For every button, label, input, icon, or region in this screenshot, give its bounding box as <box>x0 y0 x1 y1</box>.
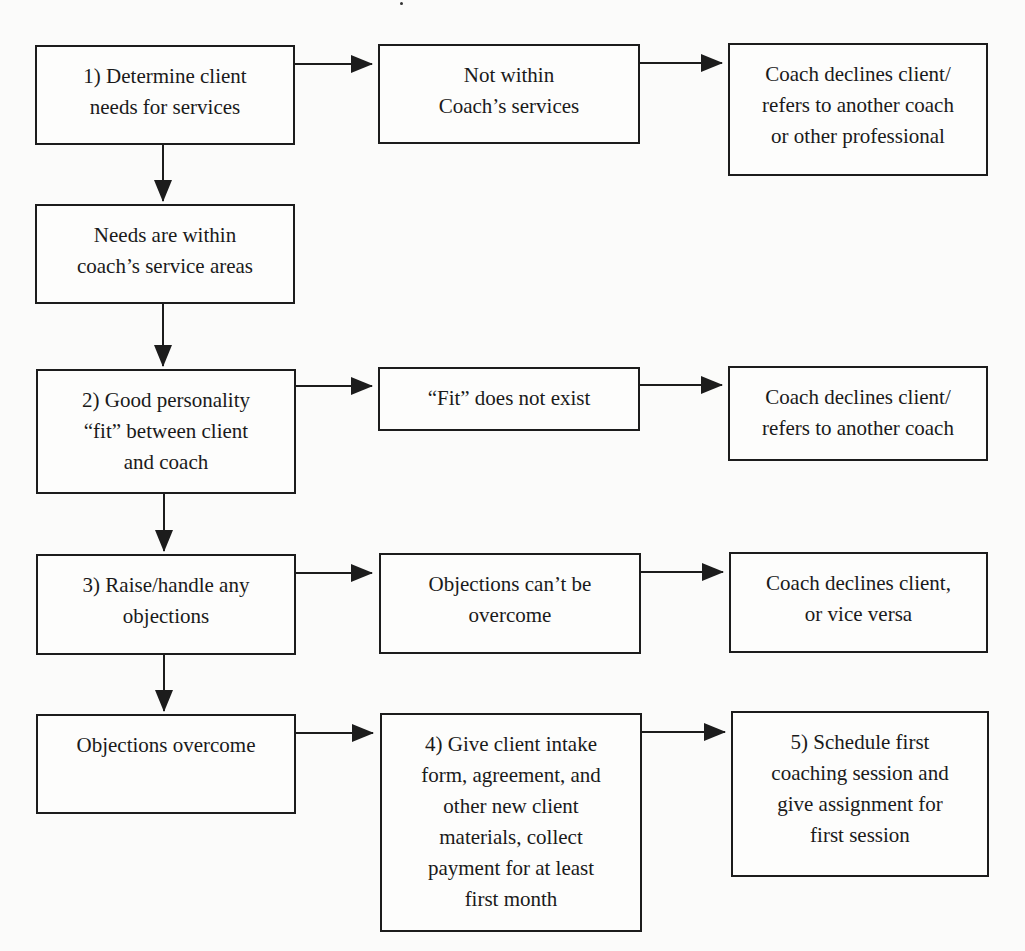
node-label: “Fit” does not exist <box>428 383 591 414</box>
node-label: Objections can’t be overcome <box>429 569 592 631</box>
node-decline3: Coach declines client, or vice versa <box>729 552 988 653</box>
node-label: 4) Give client intake form, agreement, a… <box>421 729 601 915</box>
node-fit-not-exist: “Fit” does not exist <box>378 367 640 431</box>
node-label: Objections overcome <box>76 730 255 761</box>
node-label: 3) Raise/handle any objections <box>83 570 250 632</box>
node-label: Not within Coach’s services <box>439 60 580 122</box>
node-label: Coach declines client, or vice versa <box>766 568 951 630</box>
node-label: 2) Good personality “fit” between client… <box>82 385 250 478</box>
node-label: Coach declines client/ refers to another… <box>762 382 954 444</box>
node-label: 5) Schedule first coaching session and g… <box>771 727 948 851</box>
node-decline1: Coach declines client/ refers to another… <box>728 43 988 176</box>
node-label: Needs are within coach’s service areas <box>77 220 253 282</box>
node-step5: 5) Schedule first coaching session and g… <box>731 711 989 877</box>
node-objections-cant: Objections can’t be overcome <box>379 553 641 654</box>
node-step2: 2) Good personality “fit” between client… <box>36 369 296 494</box>
node-label: Coach declines client/ refers to another… <box>762 59 954 152</box>
title-dot <box>400 2 403 5</box>
node-decline2: Coach declines client/ refers to another… <box>728 366 988 461</box>
node-needs-within: Needs are within coach’s service areas <box>35 204 295 304</box>
node-label: 1) Determine client needs for services <box>83 61 246 123</box>
node-not-within: Not within Coach’s services <box>378 44 640 144</box>
node-step1: 1) Determine client needs for services <box>35 45 295 145</box>
node-objections-overcome: Objections overcome <box>36 714 296 814</box>
node-step3: 3) Raise/handle any objections <box>36 554 296 655</box>
node-step4: 4) Give client intake form, agreement, a… <box>380 713 642 932</box>
